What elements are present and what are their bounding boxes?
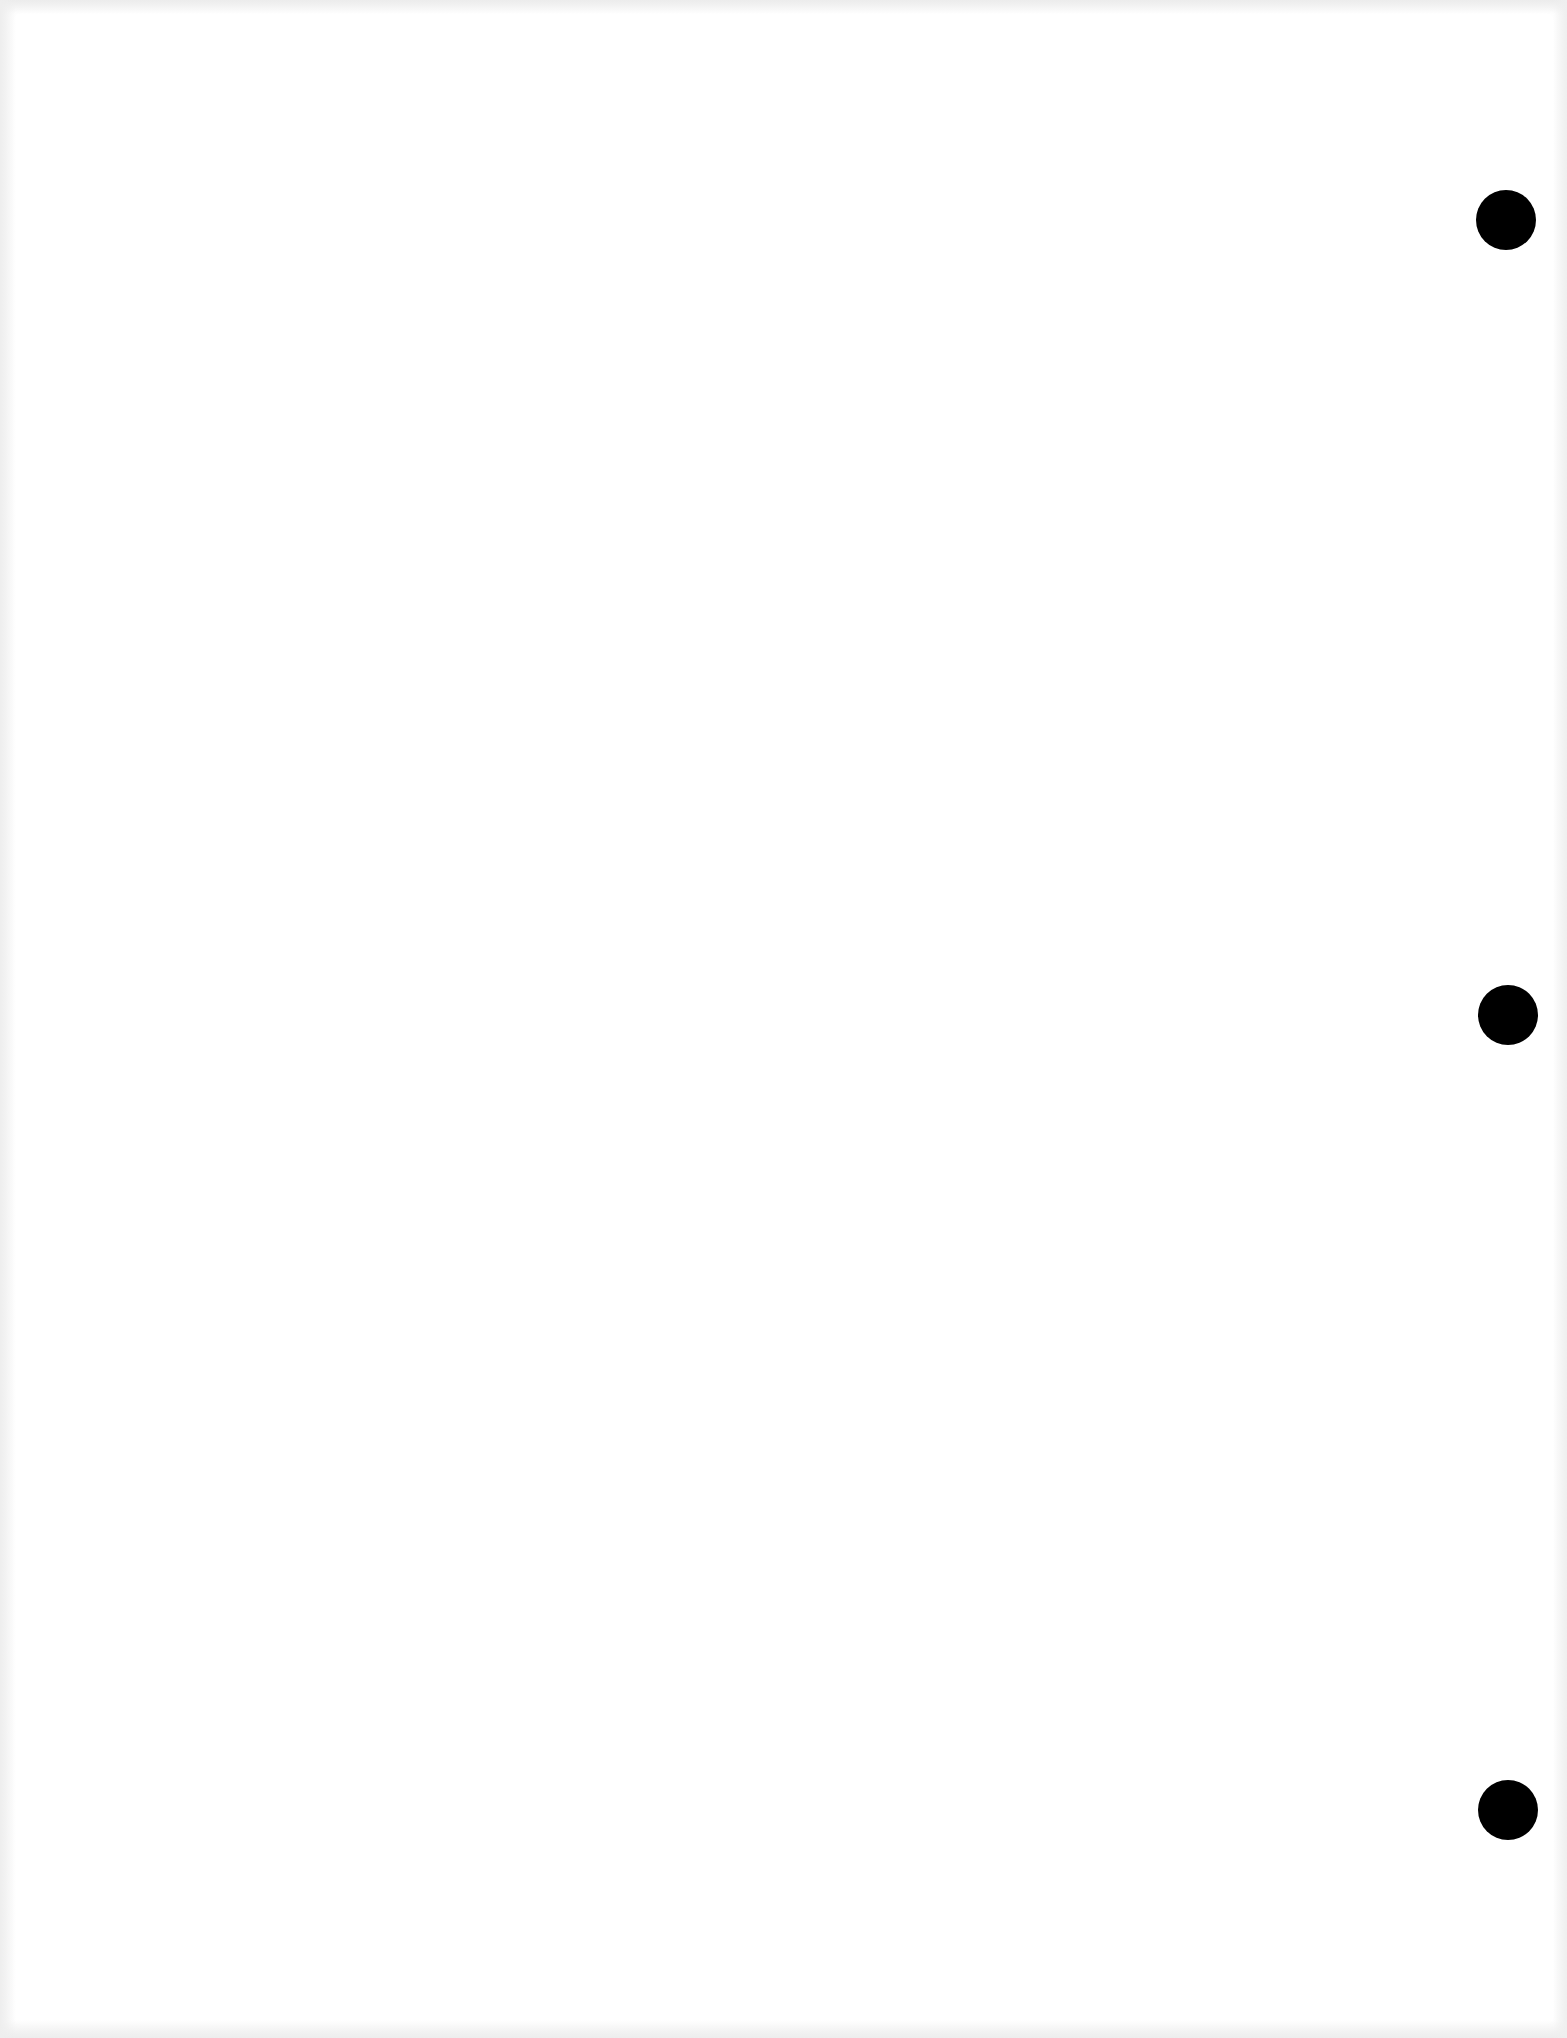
scan-edge-left <box>0 0 16 2038</box>
scan-edge-top <box>0 0 1567 14</box>
punch-hole-top <box>1476 190 1536 250</box>
scan-edge-bottom <box>0 2020 1567 2038</box>
blank-page <box>0 0 1567 2038</box>
scan-edge-right <box>1553 0 1567 2038</box>
punch-hole-bottom <box>1478 1780 1538 1840</box>
punch-hole-middle <box>1478 985 1538 1045</box>
